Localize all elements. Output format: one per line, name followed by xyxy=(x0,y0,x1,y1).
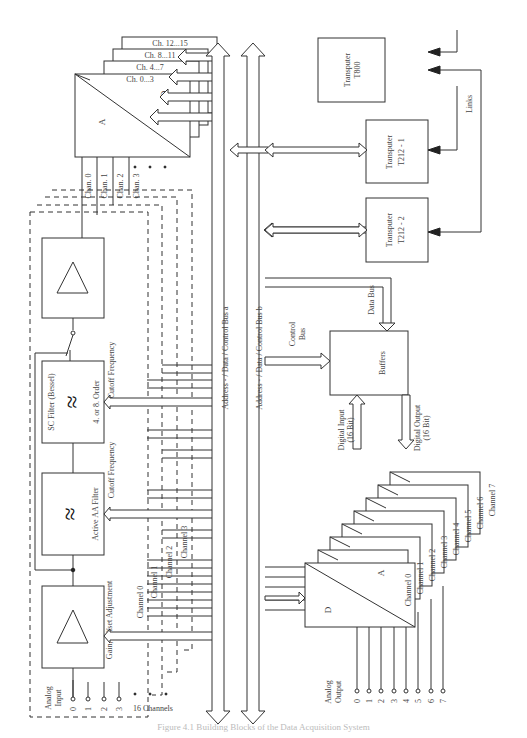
sc-filter-wave-icon: ≈ xyxy=(59,395,85,408)
out-pin-6-label: 6 xyxy=(427,699,436,703)
bus-b-label: Address - / Data / Control Bus b xyxy=(255,306,264,409)
aa-filter-label: Active AA Filter xyxy=(91,487,100,541)
transputer-t212-1-label-1: Transputer xyxy=(385,134,394,169)
analog-input-pin-2 xyxy=(102,697,106,701)
pin-0-label: 0 xyxy=(69,707,78,711)
data-acquisition-block-diagram: Ch. 12...15 Ch. 8...11 Ch. 4...7 Ch. 0..… xyxy=(0,0,527,738)
gain-control-arrow xyxy=(104,629,218,643)
transputer-t212-2-label-2: T212 - 2 xyxy=(397,216,406,244)
out-pin-5-label: 5 xyxy=(414,699,423,703)
analog-output-pin-5 xyxy=(416,689,420,693)
buffers-section: Buffers Data Bus Control Bus Digital Inp… xyxy=(265,278,431,451)
adc-channel-inputs: Chan. 0 Chan. 1 Chan. 2 Chan. 3 xyxy=(82,157,166,240)
analog-output-pin-3 xyxy=(392,689,396,693)
transputer-t800-label-2: T800 xyxy=(353,62,362,79)
out-pin-4-label: 4 xyxy=(402,699,411,703)
pin-2-label: 2 xyxy=(100,707,109,711)
pin-1-label: 1 xyxy=(84,707,93,711)
analog-output-pin-1 xyxy=(367,689,371,693)
dac-channel-3: Channel 3 xyxy=(440,536,449,569)
data-bus-label: Data Bus xyxy=(367,285,376,315)
digital-output-arrow xyxy=(398,395,414,449)
adc-a-label: A xyxy=(97,118,107,125)
figure-caption: Figure 4.1 Building Blocks of the Data A… xyxy=(0,722,527,732)
analog-output-pin-0 xyxy=(355,689,359,693)
analog-input: Analog Input 0 1 2 3 16 Channels xyxy=(44,680,173,713)
analog-output-label-2: Output xyxy=(334,680,343,703)
signal-chain: SC Filter (Bessel) 4. or 8. Order ≈ Acti… xyxy=(35,238,114,700)
digital-output-label-2: (16 Bit) xyxy=(422,415,431,440)
aa-cutoff-arrow xyxy=(104,507,218,521)
dac-stack: A D Channel 0 Channel 1 Channel 2 Channe… xyxy=(265,472,497,627)
digital-input-label-2: (16 Bit) xyxy=(346,417,355,442)
adc-label-12-15: Ch. 12...15 xyxy=(152,39,187,48)
dac-d-label: D xyxy=(323,606,333,613)
dac-channel-4: Channel 4 xyxy=(452,523,461,556)
ctrl-channel-3-label: Channel 3 xyxy=(180,526,189,559)
control-bus-label-2: Bus xyxy=(298,328,307,340)
sc-filter-label: SC Filter (Bessel) xyxy=(47,373,56,431)
transputer-t212-1-label-2: T212 - 1 xyxy=(397,138,406,166)
buffers-block xyxy=(330,331,408,395)
analog-output-pin-4 xyxy=(404,689,408,693)
analog-input-pin-0 xyxy=(71,697,75,701)
analog-output-pin-7 xyxy=(441,689,445,693)
dac-a-label: A xyxy=(376,569,386,576)
transputer-t212-2-label-1: Transputer xyxy=(385,212,394,247)
analog-input-pin-3 xyxy=(117,697,121,701)
digital-output-label-1: Digital Output xyxy=(413,404,422,451)
bus-to-t212-1-arrow xyxy=(265,143,367,157)
dac-channel-0: Channel 0 xyxy=(404,574,413,607)
adc-label-8-11: Ch. 8...11 xyxy=(144,51,175,60)
control-bus-arrow xyxy=(265,353,330,369)
ctrl-channel-0-label: Channel 0 xyxy=(136,586,145,619)
analog-output-label-1: Analog xyxy=(324,680,333,704)
out-pin-2-label: 2 xyxy=(377,699,386,703)
out-pin-1-label: 1 xyxy=(365,699,374,703)
analog-output-pin-2 xyxy=(379,689,383,693)
buffers-label: Buffers xyxy=(378,351,387,375)
ctrl-channel-2-label: Channel 2 xyxy=(165,546,174,579)
out-pin-0-label: 0 xyxy=(353,699,362,703)
transputer-t800-label-1: Transputer xyxy=(343,52,352,87)
dac-channel-6: Channel 6 xyxy=(476,497,485,530)
adc-label-4-7: Ch. 4...7 xyxy=(136,63,163,72)
sixteen-channels-label: 16 Channels xyxy=(133,704,173,713)
bus-to-t212-2-arrow xyxy=(265,223,367,237)
out-pin-3-label: 3 xyxy=(390,699,399,703)
aa-cutoff-label: Cutoff Frequency xyxy=(107,442,116,499)
digital-input-label-1: Digital Input xyxy=(337,409,346,451)
bus-a-label: Address - / Data / Control Bus a xyxy=(221,306,230,409)
ctrl-channel-1-label: Channel 1 xyxy=(150,566,159,599)
dac-channel-2: Channel 2 xyxy=(428,549,437,582)
analog-output-pin-6 xyxy=(429,689,433,693)
dac-channel-7: Channel 7 xyxy=(488,484,497,517)
aa-filter-wave-icon: ≈ xyxy=(57,507,83,520)
links-label: Links xyxy=(465,95,474,113)
analog-input-label-1: Analog xyxy=(44,686,53,710)
chan-2-label: Chan. 2 xyxy=(116,174,125,199)
chan-1-label: Chan. 1 xyxy=(100,174,109,199)
chan-3-label: Chan. 3 xyxy=(132,174,141,199)
sc-order-label: 4. or 8. Order xyxy=(92,380,101,424)
chan-0-label: Chan. 0 xyxy=(84,174,93,199)
analog-input-label-2: Input xyxy=(54,689,63,707)
analog-input-pin-1 xyxy=(86,697,90,701)
dac-channel-5: Channel 5 xyxy=(464,510,473,543)
control-bus-label-1: Control xyxy=(288,321,297,346)
adc-label-0-3: Ch. 0...3 xyxy=(126,75,153,84)
signal-chain-control-arrows: Cutoff Frequency Cutoff Frequency xyxy=(104,342,218,643)
dac-channel-1: Channel 1 xyxy=(416,562,425,595)
out-pin-7-label: 7 xyxy=(439,699,448,703)
sc-cutoff-arrow xyxy=(104,395,218,409)
pin-3-label: 3 xyxy=(115,707,124,711)
gain-offset-label: Gain, Offset Adjustment xyxy=(105,580,114,659)
transputers: Transputer T800 Transputer T212 - 1 Tran… xyxy=(265,30,481,262)
sc-cutoff-label: Cutoff Frequency xyxy=(107,342,116,399)
